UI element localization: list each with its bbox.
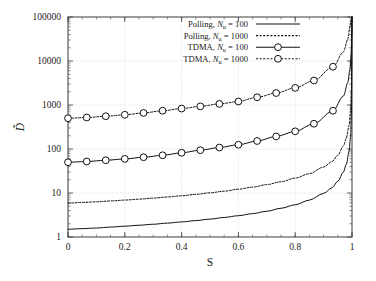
legend-marker-sample-2 [275,44,282,51]
legend-label-main: Polling, [184,31,213,41]
data-point-marker [83,114,90,121]
data-point-marker [216,100,223,107]
legend-label-main: TDMA, [183,54,213,64]
data-point-marker [178,149,185,156]
y-tick-label: 10 [52,188,62,198]
legend-label-value: = 1000 [222,54,248,64]
data-point-marker [140,110,147,117]
x-tick-label: 0.8 [289,242,301,252]
data-point-marker [216,144,223,151]
y-tick-label: 1000 [42,100,61,110]
data-point-marker [292,128,299,135]
chart-figure: 110100100010000100000 00.20.40.60.81 SD̃… [0,0,376,281]
data-point-marker [254,94,261,101]
legend-label-main: Polling, [188,19,217,29]
data-point-marker [159,107,166,114]
data-point-marker [121,156,128,163]
data-point-marker [83,158,90,165]
legend-label-value: = 1000 [222,31,248,41]
legend-marker-sample-3 [275,55,282,62]
x-tick-label: 0.6 [232,242,244,252]
y-tick-label: 100000 [33,12,62,22]
data-point-marker [330,107,337,114]
data-point-marker [178,105,185,112]
data-point-marker [235,98,242,105]
y-tick-label: 1 [56,232,61,242]
x-axis-title: S [207,256,213,268]
y-tick-label: 10000 [37,56,61,66]
x-tick-label: 0.4 [176,242,188,252]
data-point-marker [121,111,128,118]
data-point-marker [197,103,204,110]
data-point-marker [197,147,204,154]
data-point-marker [65,115,72,122]
data-point-marker [273,90,280,97]
data-point-marker [330,63,337,70]
y-axis-title: D̃ [13,122,26,132]
data-point-marker [292,84,299,91]
legend-label-2: TDMA, Nu = 100 [188,42,248,53]
data-point-marker [273,133,280,140]
y-tick-label: 100 [47,144,62,154]
log-line-chart: 110100100010000100000 00.20.40.60.81 SD̃… [0,0,376,281]
legend-label-0: Polling, Nu = 100 [188,19,248,30]
data-point-marker [311,120,318,127]
legend-label-3: TDMA, Nu = 1000 [183,54,248,65]
data-point-marker [254,138,261,145]
data-point-marker [65,159,72,166]
data-point-marker [102,157,109,164]
legend-label-value: = 100 [226,19,248,29]
legend-label-value: = 100 [226,42,248,52]
data-point-marker [159,152,166,159]
data-point-marker [311,77,318,84]
x-tick-label: 1 [350,242,355,252]
x-tick-label: 0.2 [119,242,131,252]
data-point-marker [102,113,109,120]
data-point-marker [235,141,242,148]
legend-label-1: Polling, Nu = 1000 [184,31,248,42]
x-tick-label: 0 [66,242,71,252]
legend-label-main: TDMA, [188,42,218,52]
data-point-marker [140,154,147,161]
